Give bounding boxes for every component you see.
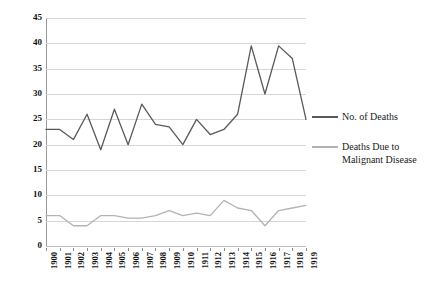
legend-swatch-icon xyxy=(312,146,338,148)
y-axis-tick-labels: 454035302520151050 xyxy=(0,18,42,246)
x-tick-mark-1916 xyxy=(265,248,266,251)
x-tick-label-1910: 1910 xyxy=(187,252,196,269)
x-tick-mark-1913 xyxy=(224,248,225,251)
x-tick-label-1900: 1900 xyxy=(50,252,59,269)
x-tick-label-1902: 1902 xyxy=(77,252,86,269)
legend-entry-no-of-deaths[interactable]: No. of Deaths xyxy=(312,110,436,123)
legend-label: No. of Deaths xyxy=(342,110,398,123)
x-tick-mark-1907 xyxy=(142,248,143,251)
x-tick-mark-1919 xyxy=(306,248,307,251)
y-tick-label-40: 40 xyxy=(2,38,42,47)
x-tick-mark-1911 xyxy=(197,248,198,251)
y-tick-label-30: 30 xyxy=(2,89,42,98)
series-line-malignant-disease xyxy=(46,200,306,225)
x-tick-label-1914: 1914 xyxy=(242,252,251,269)
x-tick-mark-1909 xyxy=(169,248,170,251)
x-tick-label-1912: 1912 xyxy=(214,252,223,269)
y-tick-label-15: 15 xyxy=(2,165,42,174)
x-tick-label-1908: 1908 xyxy=(159,252,168,269)
x-tick-label-1911: 1911 xyxy=(201,252,210,269)
y-tick-label-45: 45 xyxy=(2,13,42,22)
x-tick-mark-1917 xyxy=(279,248,280,251)
x-tick-label-1903: 1903 xyxy=(91,252,100,269)
chart-legend: No. of DeathsDeaths Due to Malignant Dis… xyxy=(312,110,436,183)
x-tick-mark-1904 xyxy=(101,248,102,251)
x-tick-mark-1906 xyxy=(128,248,129,251)
x-tick-mark-1908 xyxy=(155,248,156,251)
x-axis-tick-labels: 1900190119021903190419051906190719081909… xyxy=(46,248,306,283)
x-tick-label-1919: 1919 xyxy=(310,252,319,269)
plot-area xyxy=(46,18,306,246)
x-tick-label-1901: 1901 xyxy=(64,252,73,269)
x-tick-mark-1900 xyxy=(46,248,47,251)
x-tick-label-1916: 1916 xyxy=(269,252,278,269)
x-tick-label-1904: 1904 xyxy=(105,252,114,269)
x-tick-label-1918: 1918 xyxy=(296,252,305,269)
x-tick-mark-1903 xyxy=(87,248,88,251)
y-tick-label-5: 5 xyxy=(2,216,42,225)
x-tick-mark-1910 xyxy=(183,248,184,251)
legend-entry-malignant-disease[interactable]: Deaths Due to Malignant Disease xyxy=(312,140,436,166)
series-container xyxy=(46,18,306,246)
x-tick-mark-1901 xyxy=(60,248,61,251)
x-tick-label-1906: 1906 xyxy=(132,252,141,269)
line-chart: 454035302520151050 190019011902190319041… xyxy=(0,0,436,283)
y-tick-label-35: 35 xyxy=(2,64,42,73)
x-tick-label-1915: 1915 xyxy=(255,252,264,269)
x-tick-mark-1902 xyxy=(73,248,74,251)
legend-swatch-icon xyxy=(312,116,338,118)
x-tick-mark-1915 xyxy=(251,248,252,251)
y-tick-label-0: 0 xyxy=(2,241,42,250)
x-tick-label-1917: 1917 xyxy=(283,252,292,269)
x-tick-mark-1905 xyxy=(114,248,115,251)
series-line-no-of-deaths xyxy=(46,46,306,150)
y-tick-label-10: 10 xyxy=(2,190,42,199)
y-tick-label-20: 20 xyxy=(2,140,42,149)
legend-label: Deaths Due to Malignant Disease xyxy=(342,140,436,166)
x-tick-label-1909: 1909 xyxy=(173,252,182,269)
x-tick-label-1905: 1905 xyxy=(118,252,127,269)
x-tick-label-1913: 1913 xyxy=(228,252,237,269)
x-tick-mark-1914 xyxy=(238,248,239,251)
x-tick-mark-1918 xyxy=(292,248,293,251)
x-tick-label-1907: 1907 xyxy=(146,252,155,269)
gridline-0 xyxy=(46,246,306,247)
y-tick-label-25: 25 xyxy=(2,114,42,123)
x-tick-mark-1912 xyxy=(210,248,211,251)
